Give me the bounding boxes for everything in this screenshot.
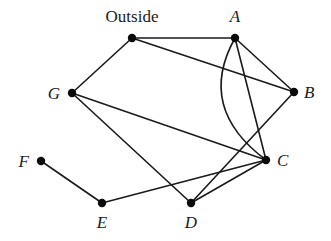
edge-a-c-curved: [221, 38, 266, 160]
edge-c-d: [191, 160, 266, 203]
edge-g-c: [72, 93, 266, 160]
edge-g-d: [72, 93, 191, 203]
graph-diagram: OutsideABCDEFG: [0, 0, 331, 241]
node-label-b: B: [304, 83, 315, 102]
node-g: [68, 89, 76, 97]
node-label-g: G: [48, 84, 60, 103]
node-e: [98, 199, 106, 207]
node-outside: [128, 34, 136, 42]
node-label-outside: Outside: [106, 7, 159, 26]
edge-a-b: [235, 38, 294, 92]
edge-outside-b: [132, 38, 294, 92]
edge-e-f: [41, 161, 102, 203]
edge-outside-g: [72, 38, 132, 93]
node-c: [262, 156, 270, 164]
node-label-f: F: [18, 152, 30, 171]
node-f: [37, 157, 45, 165]
node-label-a: A: [229, 7, 241, 26]
node-a: [231, 34, 239, 42]
graph-canvas: OutsideABCDEFG: [0, 0, 331, 241]
node-b: [290, 88, 298, 96]
edges-group: [41, 38, 294, 203]
node-label-c: C: [277, 151, 289, 170]
node-d: [187, 199, 195, 207]
labels-group: OutsideABCDEFG: [18, 7, 315, 232]
edge-b-d: [191, 92, 294, 203]
node-label-d: D: [184, 213, 198, 232]
edge-a-c: [235, 38, 266, 160]
node-label-e: E: [96, 213, 108, 232]
